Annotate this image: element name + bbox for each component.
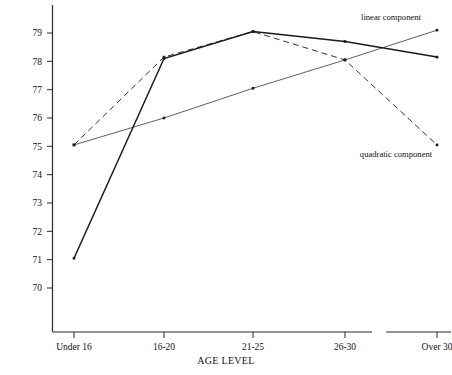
y-tick-label: 78 bbox=[33, 57, 43, 67]
y-tick-label: 76 bbox=[33, 113, 43, 123]
chart-canvas: 70717273747576777879 Under 1616-2021-252… bbox=[0, 0, 452, 375]
data-point-marker bbox=[163, 117, 166, 120]
y-tick-label: 70 bbox=[33, 283, 43, 293]
x-tick-label: Over 30 bbox=[422, 342, 452, 352]
y-tick-label: 75 bbox=[33, 142, 43, 152]
data-point-marker bbox=[252, 87, 255, 90]
x-tick-label: 26-30 bbox=[334, 342, 356, 352]
linear-component-label: linear component bbox=[361, 12, 422, 22]
data-point-marker bbox=[436, 29, 439, 32]
data-point-marker bbox=[163, 56, 166, 59]
data-point-marker bbox=[436, 56, 439, 59]
y-tick-label: 79 bbox=[33, 28, 43, 38]
x-tick-label: 21-25 bbox=[242, 342, 264, 352]
y-tick-label: 74 bbox=[33, 170, 43, 180]
data-point-marker bbox=[344, 59, 347, 62]
y-tick-label: 71 bbox=[33, 255, 43, 265]
chart-background bbox=[0, 0, 452, 375]
y-tick-label: 77 bbox=[33, 85, 43, 95]
data-point-marker bbox=[252, 30, 255, 33]
x-tick-label: Under 16 bbox=[56, 342, 92, 352]
y-tick-label: 73 bbox=[33, 198, 43, 208]
data-point-marker bbox=[73, 257, 76, 260]
data-point-marker bbox=[73, 144, 76, 147]
data-point-marker bbox=[344, 40, 347, 43]
x-tick-label: 16-20 bbox=[153, 342, 175, 352]
x-axis-title: AGE LEVEL bbox=[197, 355, 254, 366]
chart-figure: 70717273747576777879 Under 1616-2021-252… bbox=[0, 0, 452, 375]
y-tick-label: 72 bbox=[33, 227, 43, 237]
quadratic-component-label: quadratic component bbox=[360, 149, 433, 159]
data-point-marker bbox=[436, 144, 439, 147]
